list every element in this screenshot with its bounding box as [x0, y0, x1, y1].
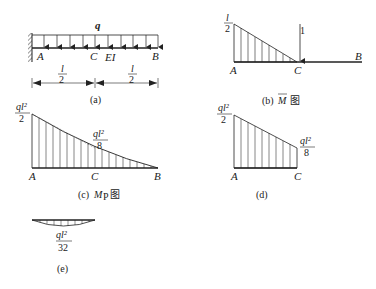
- point-b-label-b: B: [355, 50, 362, 62]
- caption-a: (a): [90, 94, 101, 106]
- figure-d: ql² 2 ql² 8 A C (d): [217, 102, 315, 201]
- fixed-support-hatch: [28, 33, 32, 62]
- caption-b-symbol: M: [277, 95, 287, 106]
- distributed-load-arrows: [44, 35, 158, 47]
- span-right-den: 2: [129, 74, 134, 85]
- diagram-canvas: q A C EI B l 2 l 2 (a): [0, 0, 376, 289]
- span-right-num: l: [131, 63, 134, 74]
- peak-c-den: 2: [19, 113, 24, 124]
- point-a-label-b: A: [229, 64, 237, 76]
- caption-b-prefix: (b): [262, 95, 274, 107]
- dimension-line: [32, 78, 158, 88]
- point-b-label-c: B: [154, 170, 161, 182]
- point-c-label: C: [90, 50, 98, 62]
- caption-c-subscript: P: [103, 191, 109, 202]
- figure-e: ql² 32 (e): [32, 220, 95, 275]
- load-label-q: q: [95, 19, 101, 31]
- caption-c-symbol: M: [93, 189, 103, 200]
- caption-e: (e): [57, 263, 68, 275]
- point-a-label-c: A: [28, 170, 36, 182]
- figure-b: 1 l 2 A C B (b) M 图: [224, 12, 362, 107]
- value-e-den: 32: [58, 242, 68, 253]
- trapezoid-outline: [234, 115, 297, 168]
- mbar-triangle: [234, 24, 297, 62]
- span-left-den: 2: [59, 74, 64, 85]
- end-d-num: ql²: [300, 135, 312, 146]
- figure-c: ql² 2 ql² 8 A C B (c) M P 图: [15, 101, 161, 202]
- mid-c-num: ql²: [93, 128, 105, 139]
- point-b-label: B: [152, 50, 159, 62]
- peak-d-den: 2: [221, 114, 226, 125]
- peak-c-num: ql²: [16, 101, 28, 112]
- peak-b-den: 2: [225, 23, 230, 34]
- point-c-label-c: C: [91, 170, 99, 182]
- segment-parabola: [32, 220, 95, 226]
- unit-load-label: 1: [300, 25, 305, 36]
- peak-d-num: ql²: [218, 102, 230, 113]
- point-c-label-d: C: [294, 170, 302, 182]
- caption-c-suffix: 图: [110, 189, 120, 200]
- caption-d: (d): [256, 189, 268, 201]
- point-a-label-d: A: [230, 170, 238, 182]
- peak-b-num: l: [226, 12, 229, 23]
- caption-b-suffix: 图: [290, 95, 300, 106]
- trapezoid-hatch-lines: [241, 119, 290, 168]
- mid-c-den: 8: [97, 140, 102, 151]
- mp-hatch-lines: [39, 118, 151, 168]
- end-d-den: 8: [304, 147, 309, 158]
- mp-dashed-chord: [32, 114, 95, 148]
- segment-hatch-lines: [40, 220, 89, 226]
- point-a-label: A: [36, 50, 44, 62]
- point-c-label-b: C: [294, 64, 302, 76]
- value-e-num: ql²: [56, 229, 68, 240]
- stiffness-label: EI: [104, 51, 117, 63]
- span-left-num: l: [61, 63, 64, 74]
- caption-c-prefix: (c): [78, 189, 89, 201]
- figure-a: q A C EI B l 2 l 2 (a): [28, 19, 159, 106]
